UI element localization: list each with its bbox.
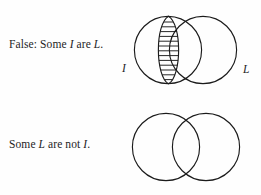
set-label-right-top: L: [243, 64, 249, 76]
circle-right-bottom: [172, 113, 239, 180]
circle-left-bottom: [132, 113, 199, 180]
caption-bottom-suffix: .: [87, 138, 90, 150]
caption-top-suffix: .: [100, 38, 103, 50]
venn-diagram-figure: False: Some I are L.: [0, 0, 261, 195]
set-label-left-top: I: [122, 63, 126, 75]
venn-panel-bottom: Some L are not I. X I L: [0, 97, 261, 194]
venn-graphic-top: [108, 0, 261, 97]
caption-bottom: Some L are not I.: [9, 139, 90, 151]
caption-top-prefix: False: Some: [9, 38, 70, 50]
caption-bottom-middle: are not: [45, 138, 83, 150]
caption-top-middle: are: [74, 38, 94, 50]
caption-top: False: Some I are L.: [9, 39, 103, 51]
venn-graphic-bottom: [108, 97, 261, 194]
caption-bottom-prefix: Some: [9, 138, 39, 150]
venn-panel-top: False: Some I are L.: [0, 0, 261, 97]
circle-right-top: [169, 16, 236, 83]
